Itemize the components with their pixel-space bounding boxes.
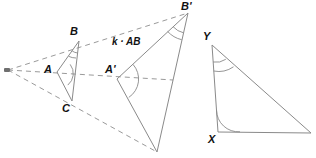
segment-B-prime-C-prime bbox=[157, 13, 188, 152]
vertex-label-B-prime: B' bbox=[181, 1, 192, 12]
angle-mark-X bbox=[217, 110, 241, 132]
segment-ZX bbox=[218, 132, 311, 133]
vertex-label-Y: Y bbox=[203, 31, 210, 42]
scale-factor-label: k · AB bbox=[112, 37, 141, 47]
vertex-label-X: X bbox=[208, 134, 215, 145]
ray-center-through-B-to-B-prime bbox=[8, 13, 188, 70]
center-of-dilation-marker bbox=[4, 68, 10, 72]
triangle-ABC bbox=[57, 41, 79, 101]
vertex-label-B: B bbox=[70, 26, 78, 37]
angle-mark-A bbox=[68, 64, 73, 85]
vertex-label-A-prime: A' bbox=[105, 64, 116, 75]
triangle-A-prime-B-prime-C-prime bbox=[117, 13, 188, 152]
angle-mark-B-prime bbox=[168, 27, 184, 40]
vertex-label-C: C bbox=[62, 103, 70, 114]
figure-canvas bbox=[0, 0, 316, 158]
segment-XY bbox=[212, 45, 218, 132]
geometry-figure: A B C A' B' Y X k · AB bbox=[0, 0, 316, 158]
segment-CA bbox=[57, 72, 72, 101]
segment-YZ bbox=[212, 45, 311, 133]
dilation-rays-group bbox=[8, 13, 188, 152]
angle-mark-A-prime bbox=[129, 64, 139, 97]
vertex-label-A: A bbox=[44, 64, 52, 75]
ray-center-through-A-to-A-prime bbox=[8, 70, 173, 80]
triangle-XYZ bbox=[212, 45, 311, 133]
